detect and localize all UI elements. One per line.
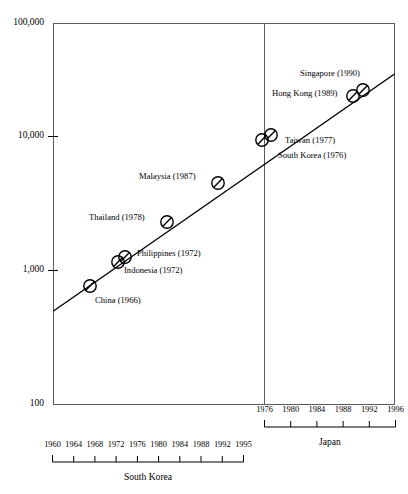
trend-line <box>54 74 395 311</box>
japan-ruler <box>265 420 396 427</box>
point-label-china: China (1966) <box>95 296 141 305</box>
korea-tick-label-1995: 1995 <box>230 441 258 449</box>
data-point-singapore <box>357 84 369 96</box>
y-tick-label-100: 100 <box>0 399 44 409</box>
point-label-south-korea: South Korea (1976) <box>278 151 346 160</box>
y-tick-label-100000: 100,000 <box>0 18 44 28</box>
y-tick-label-10000: 10,000 <box>0 131 44 141</box>
japan-tick-label-1984: 1984 <box>303 406 331 414</box>
japan-tick-label-1996: 1996 <box>382 406 408 414</box>
south-korea-ruler <box>53 455 244 462</box>
chart-figure: 100,000 10,000 1,000 100 China (1966) In… <box>0 0 408 494</box>
point-label-singapore: Singapore (1990) <box>300 69 360 78</box>
data-point-china <box>84 280 96 292</box>
japan-tick-label-1976: 1976 <box>251 406 279 414</box>
point-label-thailand: Thailand (1978) <box>89 213 145 222</box>
point-label-taiwan: Taiwan (1977) <box>285 136 335 145</box>
data-point-malaysia <box>212 177 224 189</box>
japan-tick-label-1988: 1988 <box>329 406 357 414</box>
point-label-indonesia: Indonesia (1972) <box>124 266 182 275</box>
japan-axis-name: Japan <box>301 437 359 447</box>
japan-tick-label-1980: 1980 <box>277 406 305 414</box>
japan-tick-label-1992: 1992 <box>355 406 383 414</box>
point-label-philippines: Philippines (1972) <box>137 249 201 258</box>
y-tick-label-1000: 1,000 <box>0 265 44 275</box>
point-label-malaysia: Malaysia (1987) <box>139 172 196 181</box>
point-label-hong-kong: Hong Kong (1989) <box>272 89 337 98</box>
data-point-thailand <box>161 216 173 228</box>
south-korea-axis-name: South Korea <box>113 472 183 482</box>
